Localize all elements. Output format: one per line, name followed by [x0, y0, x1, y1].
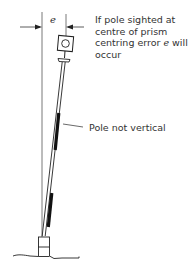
pole	[42, 62, 65, 236]
sighting-note: If pole sighted at centre of prism centr…	[95, 14, 188, 60]
ground-base	[13, 237, 79, 259]
prism	[57, 35, 73, 62]
sighting-note-line-4: occur	[95, 49, 188, 61]
sighting-note-line-2: centre of prism	[95, 26, 188, 38]
sighting-note-line-3-text: centring error	[95, 37, 163, 48]
pole-note: Pole not vertical	[89, 122, 166, 134]
sighting-note-line-3-suffix: will	[169, 37, 188, 48]
symbol-e-label: e	[50, 14, 56, 25]
sighting-note-line-3: centring error e will	[95, 37, 188, 49]
pole-note-leader	[63, 124, 83, 127]
sighting-note-line-1: If pole sighted at	[95, 14, 188, 26]
